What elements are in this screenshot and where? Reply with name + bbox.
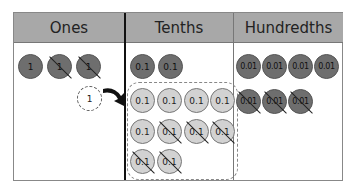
tenths-regrouped-counter-crossed: 0.1 (157, 149, 182, 174)
tenths-regrouped-counter: 0.1 (157, 88, 182, 113)
header-hundredths: Hundredths (234, 13, 343, 43)
tenths-regrouped-counter-crossed: 0.1 (130, 149, 155, 174)
hundredths-counter-crossed: 0.01 (288, 89, 313, 114)
regrouped-one-counter: 1 (77, 86, 102, 111)
tenths-regrouped-counter-crossed: 0.1 (184, 119, 209, 144)
regroup-arrow-icon (102, 87, 128, 109)
ones-counter: 1 (18, 54, 43, 79)
tenths-regrouped-counter-crossed: 0.1 (157, 119, 182, 144)
tenths-regrouped-counter: 0.1 (184, 88, 209, 113)
ones-counter-crossed: 1 (47, 54, 72, 79)
header-ones: Ones (14, 13, 124, 43)
tenths-regrouped-counter-crossed: 0.1 (210, 119, 235, 144)
tenths-counter: 0.1 (130, 54, 155, 79)
tenths-counter: 0.1 (158, 54, 183, 79)
tenths-regrouped-counter: 0.1 (130, 119, 155, 144)
hundredths-counter: 0.01 (236, 54, 261, 79)
tenths-regrouped-counter: 0.1 (210, 88, 235, 113)
ones-counter-crossed: 1 (76, 54, 101, 79)
hundredths-counter-crossed: 0.01 (262, 89, 287, 114)
header-tenths: Tenths (125, 13, 233, 43)
hundredths-counter: 0.01 (314, 54, 339, 79)
place-value-chart: Ones Tenths Hundredths 1 1 1 1 0.1 0.1 0… (13, 12, 343, 181)
hundredths-counter-crossed: 0.01 (236, 89, 261, 114)
tenths-regrouped-counter: 0.1 (130, 88, 155, 113)
hundredths-counter: 0.01 (262, 54, 287, 79)
hundredths-counter: 0.01 (288, 54, 313, 79)
